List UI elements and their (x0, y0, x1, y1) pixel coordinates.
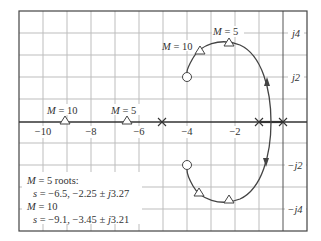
y-tick-label: −j2 (287, 160, 303, 171)
x-tick-label: −10 (35, 126, 51, 137)
y-tick-label: j2 (290, 72, 301, 83)
annotation-line-3: M = 10 (26, 201, 57, 212)
y-tick-label: −j4 (287, 204, 303, 215)
annotation-line-4: s = −9.1, −3.45 ± j3.21 (33, 214, 129, 225)
x-tick-label: −6 (133, 126, 144, 137)
triangle-marker-icon (224, 195, 234, 203)
x-tick-labels: −10 −8 −6 −4 −2 (30, 126, 246, 138)
triangle-marker-icon (122, 116, 132, 124)
label-real-m5: M = 5 (110, 105, 136, 116)
y-tick-label: j4 (290, 28, 301, 39)
x-tick-label: −4 (181, 126, 193, 137)
label-real-m10: M = 10 (46, 105, 77, 116)
x-tick-label: −8 (85, 126, 96, 137)
arrow-down-icon (263, 158, 269, 167)
annotation-line-1: M = 5 roots: (26, 175, 79, 186)
x-tick-label: −2 (229, 126, 240, 137)
zero-lower-icon (183, 161, 192, 170)
triangle-marker-icon (60, 116, 70, 124)
label-upper-m5: M = 5 (212, 26, 238, 37)
root-locus-plot: M = 10 M = 5 M = 10 M = 5 −10 −8 −6 −4 −… (0, 0, 321, 241)
label-upper-m10: M = 10 (161, 41, 192, 52)
annotation-line-2: s = −6.5, −2.25 ± j3.27 (33, 188, 129, 199)
zero-upper-icon (183, 73, 192, 82)
